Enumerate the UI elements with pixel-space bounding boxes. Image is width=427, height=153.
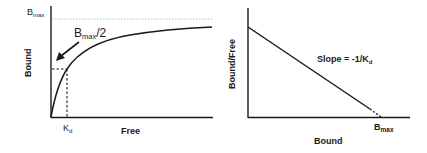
y-axis-label-bound: Bound bbox=[23, 49, 33, 78]
half-bmax-label: B bbox=[74, 26, 82, 40]
bmax-sub: max bbox=[33, 12, 44, 18]
half-bmax-sub: max bbox=[82, 32, 96, 41]
saturation-plot: Bmax Bmax/2 Kd Free Bound bbox=[23, 6, 213, 136]
arrow-shaft bbox=[61, 42, 79, 56]
diagram-canvas: Bmax Bmax/2 Kd Free Bound Slope = -1/Kd … bbox=[0, 0, 427, 153]
svg-text:Bmax: Bmax bbox=[374, 122, 394, 133]
kd-sub: d bbox=[69, 128, 72, 134]
slope-sub: d bbox=[369, 59, 373, 65]
x-axis-label-bound: Bound bbox=[314, 136, 343, 146]
svg-text:Bmax/2: Bmax/2 bbox=[74, 26, 107, 41]
bmax-intercept-sub: max bbox=[381, 126, 394, 133]
x-axis-label-free: Free bbox=[121, 126, 140, 136]
scatchard-extrapolation bbox=[370, 109, 381, 117]
svg-text:Kd: Kd bbox=[63, 123, 72, 134]
svg-text:Slope = -1/Kd: Slope = -1/Kd bbox=[317, 54, 373, 65]
binding-curve bbox=[51, 27, 212, 117]
svg-text:Bmax: Bmax bbox=[27, 7, 44, 18]
scatchard-line bbox=[248, 27, 370, 109]
scatchard-plot: Slope = -1/Kd Bmax Bound Bound/Free bbox=[227, 8, 410, 146]
half-bmax-suffix: /2 bbox=[96, 26, 106, 40]
slope-label: Slope = -1/K bbox=[317, 54, 369, 64]
y-axis-label-bound-free: Bound/Free bbox=[227, 39, 237, 89]
